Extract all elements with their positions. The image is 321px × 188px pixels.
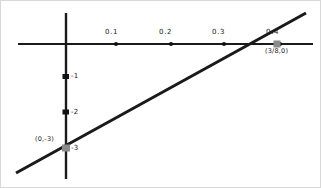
y-intercept-marker — [62, 145, 70, 152]
y-tick-dot — [63, 110, 70, 115]
x-intercept-label: (3/8,0) — [265, 47, 288, 55]
y-tick-label--2: -2 — [71, 108, 78, 116]
x-tick-label-0.3: 0.3 — [212, 28, 225, 36]
x-tick-dot — [169, 42, 173, 46]
y-tick-label--1: -1 — [71, 72, 78, 80]
y-tick-label--3: -3 — [71, 144, 78, 152]
x-tick-label-0.4: 0.4 — [266, 28, 279, 36]
function-line — [16, 13, 306, 173]
x-tick-label-0.2: 0.2 — [159, 28, 172, 36]
y-tick-dot — [63, 74, 70, 79]
x-tick-dot — [222, 42, 226, 46]
y-intercept-label: (0,-3) — [35, 135, 54, 143]
x-tick-dot — [114, 42, 118, 46]
graph-figure: 0.1 0.2 0.3 0.4 -1 -2 -3 (3/8,0) (0,-3) — [0, 0, 321, 188]
x-tick-label-0.1: 0.1 — [105, 28, 118, 36]
